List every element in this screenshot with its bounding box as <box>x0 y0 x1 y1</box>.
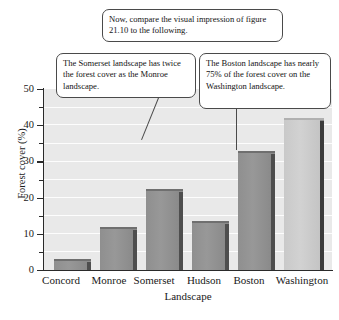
bar-side-shadow <box>87 262 91 270</box>
bar-face <box>284 118 320 270</box>
y-tick-major <box>37 198 43 199</box>
bar-side-shadow <box>179 192 183 271</box>
y-tick-minor <box>39 143 43 144</box>
y-tick-major <box>37 270 43 271</box>
bar-somerset <box>146 189 183 271</box>
bar-top-edge <box>100 227 137 229</box>
bar-hudson <box>192 221 229 270</box>
y-tick-major <box>37 89 43 90</box>
bar-top-edge <box>54 259 91 261</box>
bar-face <box>146 189 179 271</box>
bar-face <box>192 221 225 270</box>
y-tick-major <box>37 234 43 235</box>
callout-boston: The Boston landscape has nearly 75% of t… <box>199 53 331 109</box>
leader-line-boston <box>236 107 237 150</box>
plot-area <box>44 89 332 270</box>
bar-top-edge <box>284 118 324 120</box>
callout-top: Now, compare the visual impression of fi… <box>102 9 283 42</box>
bar-washington <box>284 118 324 270</box>
y-tick-minor <box>39 180 43 181</box>
y-axis-title: Forest cover (%) <box>16 104 27 224</box>
forest-cover-bar-chart-figure: 50 40 30 20 10 0 Forest cover (%) Concor… <box>0 0 339 320</box>
x-axis-line <box>43 270 333 271</box>
bar-face <box>100 227 133 270</box>
y-tick-label-10: 10 <box>12 229 34 239</box>
y-axis-line <box>43 88 44 271</box>
y-tick-major <box>37 125 43 126</box>
y-tick-minor <box>39 216 43 217</box>
bar-concord <box>54 259 91 270</box>
bar-monroe <box>100 227 137 270</box>
y-tick-label-50: 50 <box>12 84 34 94</box>
bar-boston <box>238 151 275 271</box>
bar-top-edge <box>192 221 229 223</box>
y-tick-minor <box>39 107 43 108</box>
bar-side-shadow <box>320 121 324 270</box>
y-tick-minor <box>39 252 43 253</box>
bar-side-shadow <box>225 224 229 270</box>
x-axis-title: Landscape <box>44 290 332 302</box>
y-tick-major <box>37 161 43 162</box>
callout-somerset: The Somerset landscape has twice the for… <box>56 53 196 98</box>
bar-top-edge <box>238 151 275 153</box>
bar-side-shadow <box>271 154 275 271</box>
bar-top-edge <box>146 189 183 191</box>
x-tick-label-washington: Washington <box>266 274 338 286</box>
bar-side-shadow <box>133 230 137 270</box>
bar-face <box>238 151 271 271</box>
